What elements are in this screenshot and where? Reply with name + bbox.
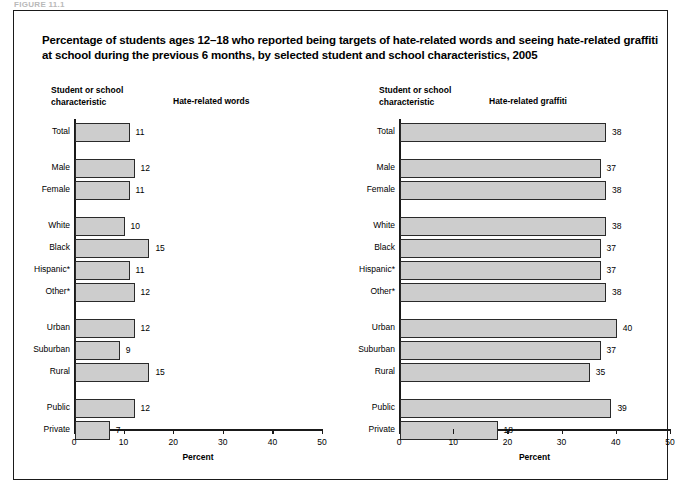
bar-category-label: Black [355,242,395,252]
bar-row: Private18 [355,421,675,440]
x-tick [173,429,174,434]
bar-value-label: 38 [612,221,621,231]
bar-value-label: 40 [623,323,632,333]
bar-row: Urban12 [30,319,350,338]
bar-category-label: Urban [30,322,70,332]
bar-category-label: Private [30,424,70,434]
bar-category-label: Public [30,402,70,412]
bar-category-label: Urban [355,322,395,332]
bar-row: White38 [355,217,675,236]
bar-value-label: 12 [141,403,150,413]
bar-value-label: 11 [136,127,145,137]
x-tick-label: 50 [317,437,326,447]
bar-category-label: Other* [355,286,395,296]
bar-value-label: 15 [155,243,164,253]
bar-value-label: 37 [607,243,616,253]
bar-category-label: Hispanic* [30,264,70,274]
bar-value-label: 12 [141,287,150,297]
bar-row: Public39 [355,399,675,418]
bar-value-label: 38 [612,287,621,297]
bar-category-label: Private [355,424,395,434]
plot-area-words: Total11Male12Female11White10Black15Hispa… [30,119,350,429]
bar-category-label: Other* [30,286,70,296]
bar [75,283,135,302]
bar [75,181,130,200]
bar-value-label: 37 [607,265,616,275]
x-tick [124,429,125,434]
bar-category-label: Total [355,126,395,136]
bar-value-label: 9 [126,345,131,355]
bar-row: Male37 [355,159,675,178]
bar-category-label: Public [355,402,395,412]
bar-row: Female38 [355,181,675,200]
x-tick [616,429,617,434]
bar-category-label: Suburban [30,344,70,354]
chart-title-graffiti: Hate-related graffiti [489,96,567,106]
bar [75,217,125,236]
bar [75,123,130,142]
x-tick-label: 20 [503,437,512,447]
bar-row: Hispanic*11 [30,261,350,280]
figure-title: Percentage of students ages 12–18 who re… [42,33,667,63]
x-tick-label: 30 [557,437,566,447]
x-tick-label: 40 [268,437,277,447]
bar [400,399,611,418]
bar-value-label: 10 [131,221,140,231]
x-tick [562,429,563,434]
x-axis-title: Percent [182,452,213,462]
bar-row: Public12 [30,399,350,418]
bar-category-label: Rural [30,366,70,376]
bar [75,399,135,418]
bar-row: Black37 [355,239,675,258]
bar-category-label: Total [30,126,70,136]
bar-value-label: 38 [612,127,621,137]
bar-row: Urban40 [355,319,675,338]
bar-category-label: Rural [355,366,395,376]
bar [400,283,606,302]
bar [75,421,110,440]
bar-row: Total11 [30,123,350,142]
figure-frame: Percentage of students ages 12–18 who re… [13,10,668,480]
x-tick [322,429,323,434]
chart-title-words: Hate-related words [173,96,250,106]
bar-row: White10 [30,217,350,236]
bar [75,363,149,382]
x-tick [399,429,400,434]
bar-value-label: 39 [617,403,626,413]
bar-row: Rural35 [355,363,675,382]
bar-value-label: 35 [596,367,605,377]
x-tick-label: 40 [611,437,620,447]
x-tick-label: 30 [218,437,227,447]
x-tick-label: 0 [397,437,402,447]
bar [400,159,601,178]
bar [75,341,120,360]
x-tick-label: 10 [119,437,128,447]
bar-value-label: 37 [607,163,616,173]
bar-value-label: 38 [612,185,621,195]
bar-value-label: 37 [607,345,616,355]
bar-row: Male12 [30,159,350,178]
plot-area-graffiti: Total38Male37Female38White38Black37Hispa… [355,119,675,429]
bar [400,217,606,236]
bar-value-label: 15 [155,367,164,377]
x-tick [74,429,75,434]
x-tick-label: 50 [665,437,674,447]
bar-value-label: 12 [141,163,150,173]
x-tick-label: 20 [168,437,177,447]
bar-category-label: Suburban [355,344,395,354]
bar-row: Suburban9 [30,341,350,360]
bar-row: Other*38 [355,283,675,302]
bar-category-label: White [30,220,70,230]
bar [400,181,606,200]
bar-row: Private7 [30,421,350,440]
bar-value-label: 12 [141,323,150,333]
bar-category-label: Male [30,162,70,172]
x-tick [223,429,224,434]
bar [75,319,135,338]
category-axis-label: Student or school characteristic [379,85,451,108]
bar-category-label: Black [30,242,70,252]
bar-row: Suburban37 [355,341,675,360]
chart-panel-hate-related-graffiti: Student or school characteristic Hate-re… [355,81,675,471]
bar-row: Rural15 [30,363,350,382]
x-tick [507,429,508,434]
